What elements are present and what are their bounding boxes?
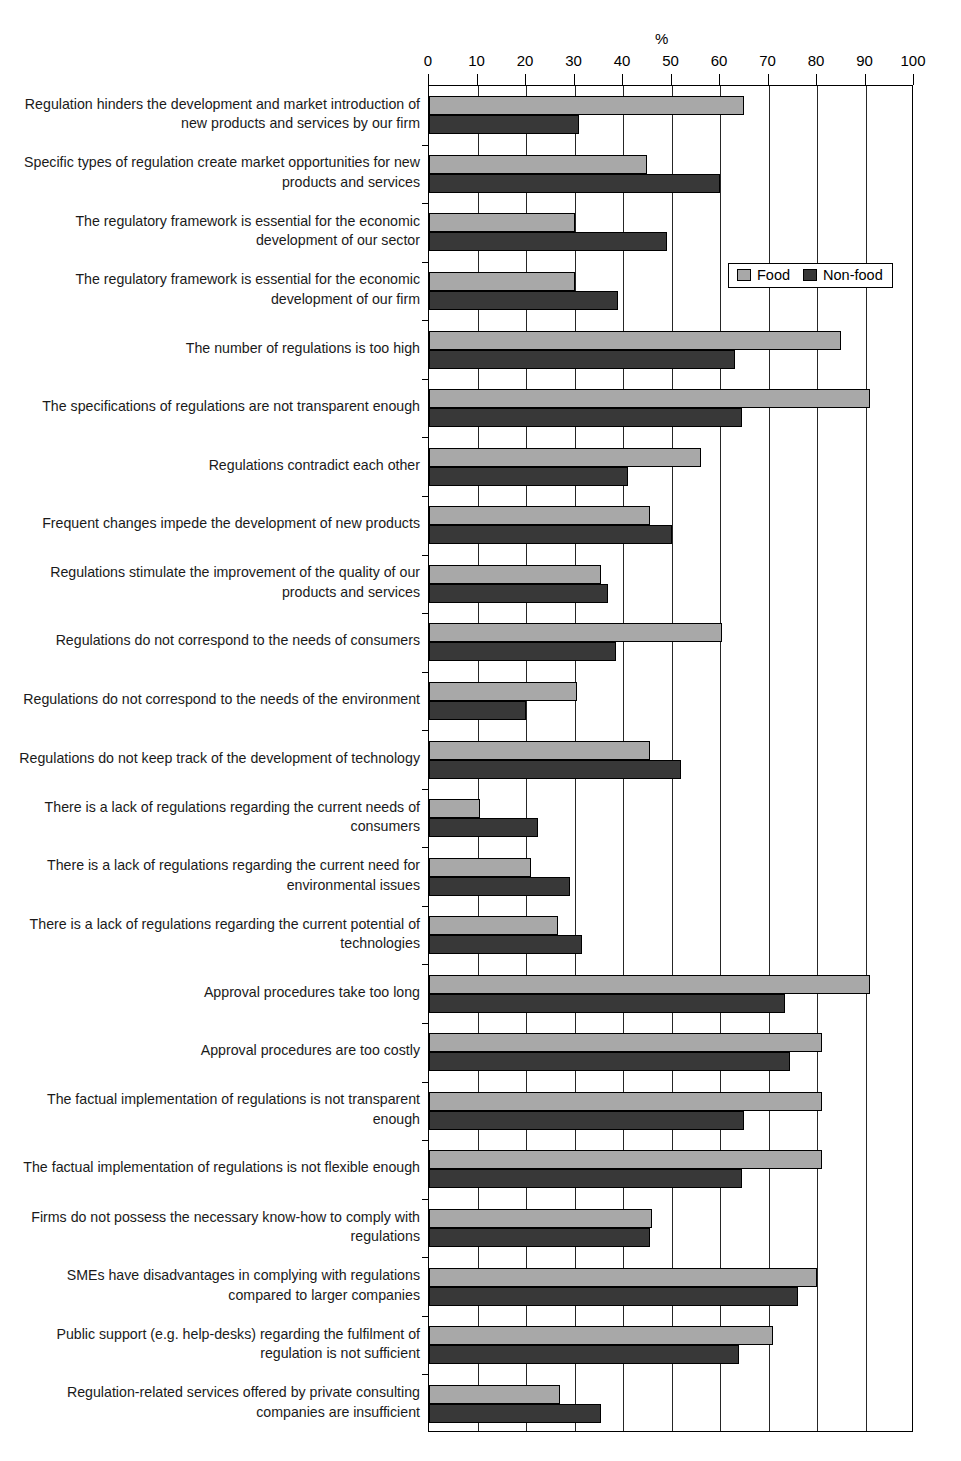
category-label: Regulations do not correspond to the nee… [10,631,420,651]
x-tick-label-10: 10 [468,52,485,69]
category-label: Firms do not possess the necessary know-… [10,1208,420,1247]
bar-nonfood [429,1404,601,1423]
legend-swatch-nonfood-icon [803,269,817,281]
category-label: Specific types of regulation create mark… [10,153,420,192]
bar-nonfood [429,525,672,544]
bar-food [429,565,601,584]
bar-group [429,682,912,720]
category-label: The factual implementation of regulation… [10,1158,420,1178]
bar-nonfood [429,642,616,661]
category-separator-tick [422,906,429,907]
category-separator-tick [422,437,429,438]
category-label: The number of regulations is too high [10,339,420,359]
bar-group [429,1092,912,1130]
bar-group [429,1209,912,1247]
x-tick-mark-60 [719,74,720,85]
bar-group [429,565,912,603]
category-label: The factual implementation of regulation… [10,1090,420,1129]
x-tick-mark-90 [865,74,866,85]
category-label: Approval procedures are too costly [10,1041,420,1061]
category-label: Regulations contradict each other [10,456,420,476]
bar-food [429,155,647,174]
category-label: There is a lack of regulations regarding… [10,915,420,954]
bar-group [429,1150,912,1188]
x-tick-mark-70 [768,74,769,85]
category-separator-tick [422,320,429,321]
bar-food [429,389,870,408]
bar-group [429,858,912,896]
bar-group [429,1385,912,1423]
bar-group [429,916,912,954]
bar-food [429,741,650,760]
category-label: SMEs have disadvantages in complying wit… [10,1266,420,1305]
category-separator-tick [422,730,429,731]
bar-food [429,1033,822,1052]
bar-food [429,272,575,291]
category-separator-tick [422,379,429,380]
bar-nonfood [429,1345,739,1364]
bar-food [429,623,722,642]
category-label: Approval procedures take too long [10,983,420,1003]
bar-chart: % 0102030405060708090100 Regulation hind… [0,0,961,1461]
bar-group [429,448,912,486]
bar-food [429,1092,822,1111]
bar-nonfood [429,408,742,427]
category-separator-tick [422,203,429,204]
bar-food [429,506,650,525]
category-labels: Regulation hinders the development and m… [0,85,424,1432]
bar-group [429,506,912,544]
bar-nonfood [429,818,538,837]
x-tick-mark-40 [622,74,623,85]
percent-symbol: % [655,30,668,47]
category-separator-tick [422,1257,429,1258]
x-axis-tick-marks [0,74,961,85]
category-label: There is a lack of regulations regarding… [10,856,420,895]
bar-group [429,155,912,193]
bar-nonfood [429,232,667,251]
bar-nonfood [429,584,608,603]
bar-food [429,96,744,115]
x-tick-label-0: 0 [424,52,432,69]
x-tick-mark-30 [574,74,575,85]
x-tick-label-50: 50 [662,52,679,69]
bar-group [429,799,912,837]
x-tick-label-70: 70 [759,52,776,69]
category-separator-tick [422,555,429,556]
bar-nonfood [429,1228,650,1247]
category-label: Regulations do not keep track of the dev… [10,749,420,769]
category-separator-tick [422,847,429,848]
bar-food [429,975,870,994]
x-axis-tick-labels: 0102030405060708090100 [0,52,961,72]
bar-food [429,682,577,701]
category-separator-tick [422,1374,429,1375]
bar-nonfood [429,1169,742,1188]
x-tick-label-80: 80 [808,52,825,69]
bar-food [429,858,531,877]
x-tick-mark-50 [671,74,672,85]
x-tick-label-60: 60 [711,52,728,69]
bar-group [429,331,912,369]
category-separator-tick [422,1199,429,1200]
legend-label-food: Food [757,268,790,283]
category-label: The regulatory framework is essential fo… [10,212,420,251]
x-tick-label-20: 20 [517,52,534,69]
category-separator-tick [422,1082,429,1083]
category-label: Frequent changes impede the development … [10,514,420,534]
bar-group [429,741,912,779]
bar-nonfood [429,935,582,954]
bar-nonfood [429,760,681,779]
category-label: The regulatory framework is essential fo… [10,270,420,309]
legend-label-nonfood: Non-food [823,268,883,283]
bar-food [429,916,558,935]
bar-group [429,1033,912,1071]
x-tick-label-90: 90 [856,52,873,69]
bar-food [429,1385,560,1404]
category-label: Regulations stimulate the improvement of… [10,563,420,602]
category-separator-tick [422,1316,429,1317]
category-label: Regulations do not correspond to the nee… [10,690,420,710]
bar-group [429,1268,912,1306]
category-separator-tick [422,496,429,497]
bar-food [429,331,841,350]
legend-swatch-food-icon [737,269,751,281]
bar-food [429,213,575,232]
